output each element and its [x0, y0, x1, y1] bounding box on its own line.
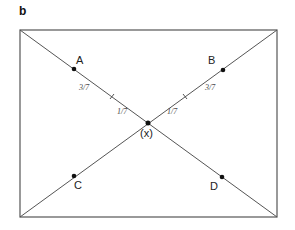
- label-c: C: [74, 179, 82, 191]
- panel-label: b: [19, 4, 26, 18]
- point-center: [146, 121, 151, 126]
- diagram-canvas: [0, 0, 295, 230]
- point-b: [221, 68, 226, 73]
- label-center: (x): [140, 127, 153, 139]
- segment-label-outer-right: 3/7: [205, 83, 215, 92]
- point-a: [72, 67, 77, 72]
- label-d: D: [210, 180, 218, 192]
- point-c: [72, 174, 77, 179]
- segment-label-inner-left: 1/7: [117, 107, 127, 116]
- segment-label-outer-left: 3/7: [79, 83, 89, 92]
- segment-label-inner-right: 1/7: [167, 107, 177, 116]
- label-a: A: [76, 54, 83, 66]
- label-b: B: [208, 54, 215, 66]
- point-d: [220, 175, 225, 180]
